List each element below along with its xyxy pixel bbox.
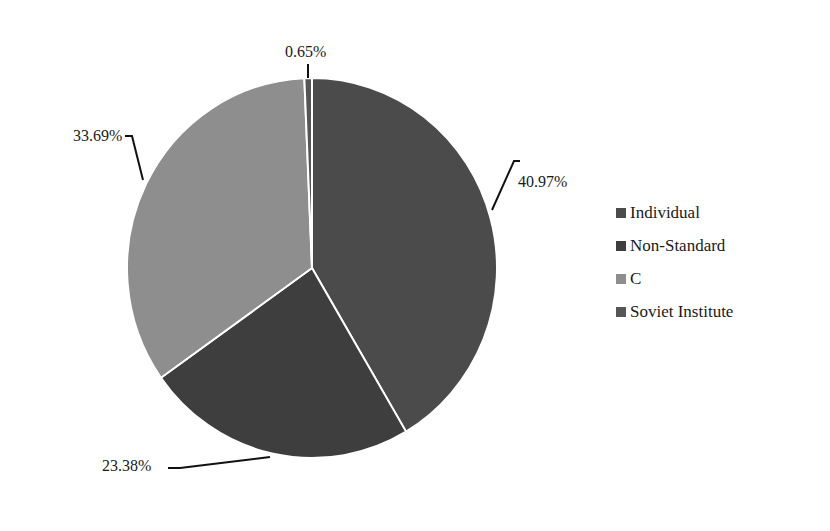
data-label-c: 33.69% <box>73 127 122 145</box>
legend-item-soviet-institute: Soviet Institute <box>616 295 733 328</box>
leader-line-individual <box>492 161 520 210</box>
leader-line-c <box>125 136 143 180</box>
legend-label: Soviet Institute <box>630 302 733 322</box>
legend-label: Individual <box>630 203 700 223</box>
legend-label: C <box>630 269 641 289</box>
pie-slices <box>127 78 497 458</box>
chart-legend: Individual Non-Standard C Soviet Institu… <box>616 196 733 328</box>
legend-swatch-icon <box>616 208 626 218</box>
data-label-non-standard: 23.38% <box>102 457 151 475</box>
leader-line-non-standard <box>168 457 270 468</box>
data-label-individual: 40.97% <box>518 173 567 191</box>
legend-swatch-icon <box>616 274 626 284</box>
legend-item-non-standard: Non-Standard <box>616 229 733 262</box>
legend-item-individual: Individual <box>616 196 733 229</box>
data-label-soviet-institute: 0.65% <box>285 43 326 61</box>
legend-item-c: C <box>616 262 733 295</box>
legend-swatch-icon <box>616 307 626 317</box>
legend-swatch-icon <box>616 241 626 251</box>
legend-label: Non-Standard <box>630 236 725 256</box>
